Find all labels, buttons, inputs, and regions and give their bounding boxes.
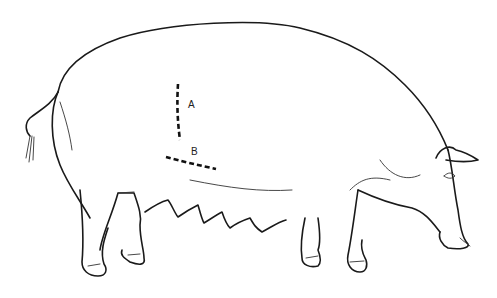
pig-head-outline [439,150,468,249]
pig-ear [436,147,478,161]
pig-belly-teats [145,200,286,232]
pig-thigh-line [60,102,72,150]
pig-hoof-hind-2 [128,254,140,255]
label-a: A [188,100,195,110]
pig-back-outline [58,23,448,150]
pig-diagram: A B [0,0,497,298]
measurement-line-a [177,84,180,140]
pig-hoof-front-2 [350,261,364,262]
pig-shoulder-fold [350,160,420,190]
pig-belly-fold [190,180,292,191]
pig-tail-tuft [26,136,34,162]
pig-illustration [0,0,497,298]
pig-hoof-hind-1 [88,264,100,266]
pig-chest-jowl [358,190,440,232]
pig-rump-outline [52,92,90,218]
label-b: B [191,147,198,157]
pig-hoof-front-1 [306,256,318,258]
pig-front-leg-front [348,190,367,272]
measurement-line-b [166,157,216,169]
pig-hind-leg-front [100,193,144,264]
pig-front-leg-back [301,218,320,267]
